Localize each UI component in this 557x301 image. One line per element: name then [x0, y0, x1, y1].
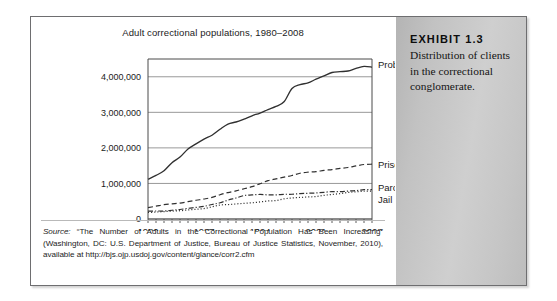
source-text: “The Number of Adults in the Correctiona…	[43, 227, 383, 259]
y-tick-label: 1,000,000	[101, 179, 141, 189]
source-note: Source: “The Number of Adults in the Cor…	[43, 226, 383, 261]
series-line-probation	[148, 66, 372, 179]
grid-lines	[148, 77, 372, 219]
chart-title: Adult correctional populations, 1980–200…	[31, 27, 395, 38]
exhibit-frame: Adult correctional populations, 1980–200…	[30, 16, 527, 286]
exhibit-number-label: EXHIBIT 1.3	[410, 33, 514, 45]
exhibit-caption-text: Distribution of clients in the correctio…	[410, 48, 514, 95]
series-label-parole: Parole	[378, 182, 395, 193]
source-label: Source:	[43, 227, 71, 236]
series-label-probation: Probation	[378, 59, 395, 70]
figure-column: Adult correctional populations, 1980–200…	[31, 17, 395, 285]
exhibit-figure-page: Adult correctional populations, 1980–200…	[0, 0, 557, 301]
chart-plot-area: 01,000,0002,000,0003,000,0004,000,000 19…	[31, 41, 395, 231]
series-line-prison	[148, 164, 372, 207]
series-line-parole	[148, 190, 372, 212]
y-tick-label: 4,000,000	[101, 72, 141, 82]
series-label-jail: Jail	[378, 194, 392, 205]
data-series-group	[148, 66, 372, 212]
line-chart-svg: 01,000,0002,000,0003,000,0004,000,000 19…	[31, 41, 395, 231]
caption-inner: EXHIBIT 1.3 Distribution of clients in t…	[410, 33, 514, 95]
series-label-prison: Prison	[378, 159, 395, 170]
exhibit-caption-panel: EXHIBIT 1.3 Distribution of clients in t…	[395, 17, 526, 285]
y-tick-label: 2,000,000	[101, 143, 141, 153]
series-inline-labels: ProbationPrisonParoleJail	[378, 59, 395, 206]
source-divider	[41, 220, 385, 221]
y-axis-tick-labels: 01,000,0002,000,0003,000,0004,000,000	[101, 72, 141, 224]
y-tick-label: 3,000,000	[101, 108, 141, 118]
